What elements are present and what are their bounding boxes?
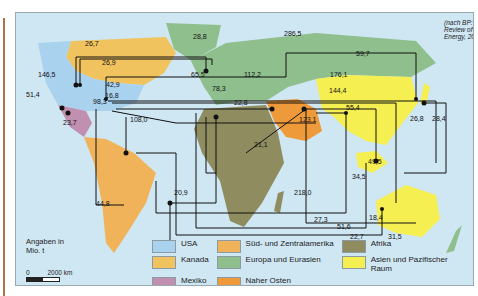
page-margin-rule [3, 18, 5, 296]
flow-value: 65,5 [191, 71, 205, 78]
flow-value: 42,9 [106, 81, 120, 88]
flow-value: 26,7 [85, 40, 99, 47]
scale-label: 0 2000 km [26, 269, 72, 276]
legend-swatch [342, 256, 366, 269]
oil-trade-map: (nach BP: Statistical Review of World En… [15, 12, 474, 286]
region-madagascar [274, 191, 284, 213]
flow-value: 51,6 [337, 223, 351, 230]
flow-value: 98,3 [93, 98, 107, 105]
scale-distance: 2000 km [47, 269, 72, 276]
region-asia-pacific [316, 75, 418, 145]
legend-swatch [152, 240, 176, 253]
flow-value: 59,7 [356, 50, 370, 57]
flow-value: 146,5 [38, 71, 56, 78]
flow-value: 286,5 [284, 30, 302, 37]
flow-value: 112,2 [244, 71, 261, 78]
legend-item-usa: USA [152, 240, 209, 253]
unit-note: Angaben in Mio. t [26, 238, 70, 255]
scale-zero: 0 [26, 269, 30, 276]
flow-value: 26,8 [410, 115, 424, 122]
flow-value: 123,1 [299, 116, 317, 123]
flow-value: 21,1 [254, 141, 268, 148]
flow-value: 22,7 [350, 233, 364, 240]
flow-value: 16,8 [105, 92, 119, 99]
legend-swatch [217, 256, 241, 269]
legend-item-europe-eurasia: Europa und Eurasien [217, 256, 334, 274]
scale-bar [26, 277, 60, 282]
flow-value: 144,4 [329, 87, 347, 94]
flow-value: 218,0 [294, 189, 312, 196]
flow-value: 23,7 [63, 119, 77, 126]
flow-value: 34,5 [352, 173, 366, 180]
source-note: (nach BP: Statistical Review of World En… [444, 19, 474, 40]
flow-value: 55,4 [346, 104, 360, 111]
flow-value: 108,0 [130, 116, 148, 123]
legend-item-mexico: Mexiko [152, 277, 209, 286]
flow-value: 78,3 [212, 85, 226, 92]
flow-value: 51,4 [26, 91, 40, 98]
flow-value: 22,8 [234, 99, 248, 106]
legend-item-middle-east: Naher Osten [217, 277, 334, 286]
flow-value: 28,8 [193, 33, 207, 40]
region-australia [376, 185, 440, 237]
legend-swatch [342, 240, 366, 253]
map-legend: USA Süd- und Zentralamerika Afrika Kanad… [152, 240, 459, 286]
legend-swatch [152, 256, 176, 269]
legend-item-asia-pacific: Asien und Pazifischer Raum [342, 256, 451, 274]
legend-item-south-america: Süd- und Zentralamerika [217, 240, 334, 253]
legend-swatch [217, 277, 241, 286]
flow-value: 18,4 [369, 214, 383, 221]
flow-value: 49,5 [368, 158, 382, 165]
flow-value: 20,9 [174, 189, 188, 196]
flow-value: 27,3 [314, 216, 328, 223]
legend-swatch [152, 277, 176, 286]
legend-item-africa: Afrika [342, 240, 451, 253]
flow-value: 26,9 [102, 59, 116, 66]
flow-value: 176,1 [330, 71, 348, 78]
flow-value: 44,8 [96, 200, 110, 207]
legend-swatch [217, 240, 241, 253]
flow-value: 28,4 [432, 115, 446, 122]
legend-item-canada: Kanada [152, 256, 209, 274]
region-south-america [84, 137, 156, 253]
